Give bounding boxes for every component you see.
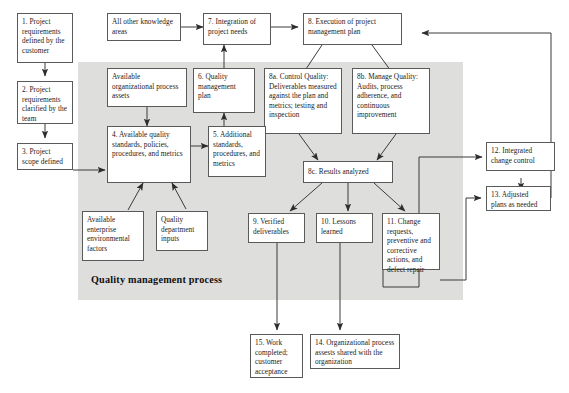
node-label: 5. Additional standards, procedures, and… [213, 130, 261, 168]
edge-n11-n13 [440, 198, 481, 280]
node-project-scope-defined[interactable]: 3. Project scope defined [17, 143, 73, 170]
node-available-quality-standards[interactable]: 4. Available quality standards, policies… [107, 126, 191, 183]
node-label: 14. Organizational process assests share… [315, 338, 395, 367]
node-verified-deliverables[interactable]: 9. Verified deliverables [248, 213, 305, 243]
node-available-organizational-process-assets[interactable]: Available organizational process assets [107, 68, 187, 107]
node-label: Available organizational process assets [112, 72, 182, 101]
node-label: 8b. Manage Quality: Audits, process adhe… [357, 72, 425, 120]
node-integrated-change-control[interactable]: 12. Integrated change control [486, 142, 555, 171]
node-label: 10. Lessons learned [321, 217, 368, 236]
node-integration-of-project-needs[interactable]: 7. Integration of project needs [203, 13, 271, 45]
edge-nqdi-n4 [172, 183, 186, 209]
node-label: Available enterprise environmental facto… [87, 215, 139, 253]
edge-n8b-n8c [377, 134, 396, 160]
edge-n13-n8 [422, 33, 551, 198]
flowchart-canvas: 1. Project requirements defined by the c… [0, 0, 569, 393]
node-label: 1. Project requirements defined by the c… [22, 17, 68, 55]
edge-n8c-n9 [290, 183, 322, 211]
process-region-title: Quality management process [91, 274, 222, 285]
node-organizational-process-assests-shared[interactable]: 14. Organizational process assests share… [310, 334, 400, 369]
node-manage-quality[interactable]: 8b. Manage Quality: Audits, process adhe… [352, 68, 430, 134]
node-label: 8. Execution of project management plan [308, 17, 397, 36]
node-label: 11. Change requests, preventive and corr… [387, 217, 435, 275]
node-available-enterprise-environmental-factors[interactable]: Available enterprise environmental facto… [82, 211, 144, 261]
node-label: 3. Project scope defined [22, 147, 68, 166]
edge-n8a-n8c [299, 134, 318, 160]
node-label: 4. Available quality standards, policies… [112, 130, 186, 159]
node-execution-of-project-management-plan[interactable]: 8. Execution of project management plan [303, 13, 402, 45]
node-quality-management-plan[interactable]: 6. Quality management plan [193, 68, 255, 113]
edge-naef-n4 [128, 183, 143, 210]
node-all-other-knowledge-areas[interactable]: All other knowledge areas [107, 13, 181, 41]
node-project-requirements-clarified[interactable]: 2. Project requirements clarified by the… [17, 81, 73, 124]
node-label: All other knowledge areas [112, 17, 176, 36]
edge-n8c-n11 [374, 183, 405, 211]
node-label: 12. Integrated change control [491, 146, 550, 165]
node-adjusted-plans-as-needed[interactable]: 13. Adjusted plans as needed [486, 186, 551, 211]
node-additional-standards[interactable]: 5. Additional standards, procedures, and… [208, 126, 266, 177]
node-work-completed[interactable]: 15. Work completed; customer acceptance [250, 334, 303, 378]
node-change-requests[interactable]: 11. Change requests, preventive and corr… [382, 213, 440, 270]
node-label: 15. Work completed; customer acceptance [255, 338, 298, 376]
node-label: Quality department inputs [161, 215, 203, 244]
node-control-quality[interactable]: 8a. Control Quality: Deliverables measur… [264, 68, 342, 134]
node-results-analyzed[interactable]: 8c. Results analyzed [303, 161, 393, 183]
node-quality-department-inputs[interactable]: Quality department inputs [156, 211, 208, 251]
node-label: 8a. Control Quality: Deliverables measur… [269, 72, 337, 120]
node-lessons-learned[interactable]: 10. Lessons learned [316, 213, 373, 243]
node-label: 9. Verified deliverables [253, 217, 300, 236]
node-label: 13. Adjusted plans as needed [491, 190, 546, 209]
node-label: 6. Quality management plan [198, 72, 250, 101]
node-project-requirements-defined[interactable]: 1. Project requirements defined by the c… [17, 13, 73, 63]
node-label: 7. Integration of project needs [208, 17, 266, 36]
node-label: 8c. Results analyzed [308, 167, 388, 177]
node-label: 2. Project requirements clarified by the… [22, 85, 68, 123]
